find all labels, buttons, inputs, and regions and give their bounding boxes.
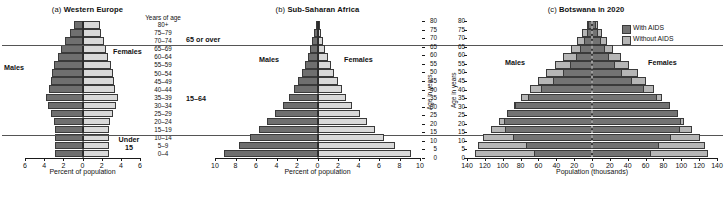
male-bar [224, 150, 317, 158]
panel-a-title: (a) Western Europe [0, 5, 175, 14]
y-tick-label: 60 [423, 52, 437, 58]
panel-a-category-15-64: 15–64 [186, 95, 206, 103]
age-group-label: 65–69 [141, 46, 185, 52]
y-tick [422, 55, 425, 56]
panel-b-y-axis-label: Age in years [426, 74, 433, 110]
y-tick-label: 0 [451, 155, 465, 161]
age-group-label: 10–14 [141, 135, 185, 141]
female-bar [318, 134, 385, 142]
x-tick [628, 158, 629, 161]
y-tick-label: 20 [451, 121, 465, 127]
age-group-label: 60–64 [141, 54, 185, 60]
x-tick [63, 158, 64, 161]
x-tick [485, 158, 486, 161]
male-bar-with-aids [526, 142, 592, 150]
y-tick-label: 20 [423, 121, 437, 127]
male-bar [55, 126, 83, 134]
male-bar [52, 69, 83, 77]
female-bar [318, 29, 322, 37]
female-bar [318, 37, 324, 45]
x-tick [681, 158, 682, 161]
age-group-label: 25–29 [141, 111, 185, 117]
y-tick-label: 70 [451, 35, 465, 41]
x-tick [215, 158, 216, 161]
panel-a-title-text: Western Europe [64, 5, 124, 14]
y-tick [464, 149, 467, 150]
male-bar [48, 102, 83, 110]
y-tick [422, 98, 425, 99]
male-bar-with-aids [553, 77, 592, 85]
y-tick [464, 124, 467, 125]
x-tick [236, 158, 237, 161]
male-bar [51, 110, 83, 118]
female-bar-with-aids [592, 61, 615, 69]
legend-label: Without AIDS [633, 35, 673, 42]
male-bar [65, 37, 82, 45]
age-group-label: 35–39 [141, 95, 185, 101]
male-bar [49, 85, 83, 93]
female-bar [83, 53, 109, 61]
y-tick [422, 141, 425, 142]
female-bar [83, 45, 106, 53]
x-tick [699, 158, 700, 161]
y-tick-label: 80 [451, 18, 465, 24]
female-bar [83, 29, 101, 37]
male-bar [283, 102, 318, 110]
y-tick-label: 0 [423, 155, 437, 161]
male-bar [55, 142, 83, 150]
female-bar [318, 94, 347, 102]
y-tick [422, 158, 425, 159]
female-bar [83, 110, 114, 118]
female-bar [318, 126, 375, 134]
female-bar-with-aids [592, 110, 678, 118]
y-tick [464, 141, 467, 142]
male-bar [239, 142, 318, 150]
x-tick [717, 158, 718, 161]
y-tick [422, 21, 425, 22]
female-bar [83, 21, 100, 29]
x-tick [256, 158, 257, 161]
age-group-label: 50–54 [141, 71, 185, 77]
panel-c-center-axis [592, 21, 593, 158]
panel-c-title-text: Botswana in 2020 [559, 5, 624, 14]
x-tick [538, 158, 539, 161]
male-bar-with-aids [576, 53, 592, 61]
x-tick [646, 158, 647, 161]
panel-a-x-axis-label: Percent of population [25, 168, 140, 175]
female-bar [318, 110, 360, 118]
x-tick [359, 158, 360, 161]
panel-a-center-axis [82, 21, 83, 158]
y-tick [422, 115, 425, 116]
age-group-label: 15–19 [141, 127, 185, 133]
male-bar-with-aids [507, 110, 592, 118]
y-tick [422, 149, 425, 150]
x-tick [83, 158, 84, 161]
y-tick-label: 15 [423, 129, 437, 135]
age-group-label: 5–9 [141, 143, 185, 149]
male-bar [308, 53, 318, 61]
female-bar [318, 61, 331, 69]
female-bar [318, 85, 343, 93]
female-bar [318, 102, 353, 110]
female-bar-with-aids [592, 21, 596, 29]
age-group-label: 0–4 [141, 151, 185, 157]
y-tick [422, 72, 425, 73]
female-bar-with-aids [592, 134, 671, 142]
female-bar [83, 118, 111, 126]
panel-a-age-header: Years of age [141, 14, 185, 21]
y-tick [464, 72, 467, 73]
y-tick [422, 38, 425, 39]
y-tick-label: 75 [423, 27, 437, 33]
y-tick [422, 64, 425, 65]
panel-a-females-label: Females [113, 47, 142, 56]
female-bar [83, 150, 110, 158]
y-tick-label: 75 [451, 27, 465, 33]
x-tick [574, 158, 575, 161]
female-bar-with-aids [592, 150, 651, 158]
age-group-label: 30–34 [141, 103, 185, 109]
male-bar [305, 61, 317, 69]
panel-b-males-label: Males [259, 55, 279, 64]
x-tick [592, 158, 593, 161]
male-bar-with-aids [513, 134, 592, 142]
y-tick [464, 81, 467, 82]
